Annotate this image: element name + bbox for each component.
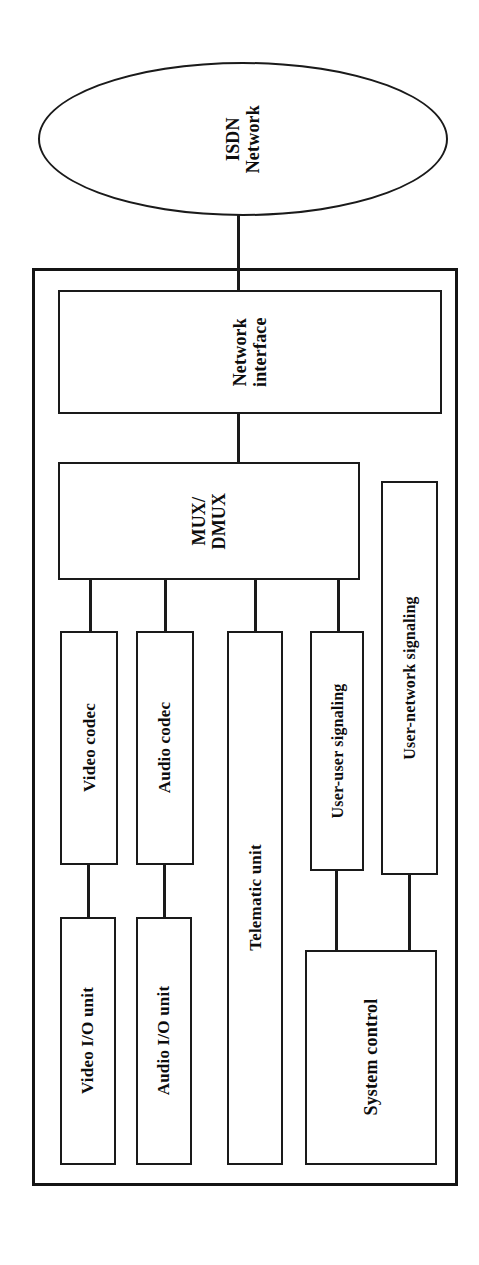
user-user-signaling-label: User-user signaling bbox=[328, 684, 346, 819]
telematic-unit-node: Telematic unit bbox=[227, 631, 283, 1165]
audio-io-unit-label-text: Audio I/O unit bbox=[154, 986, 173, 1096]
isdn-network-node: ISDN Network bbox=[38, 62, 448, 216]
telematic-unit-label-text: Telematic unit bbox=[245, 845, 264, 952]
edge-audio-codec-to-audio-io bbox=[163, 863, 166, 919]
video-io-unit-label: Video I/O unit bbox=[78, 987, 97, 1094]
video-codec-node: Video codec bbox=[60, 631, 118, 865]
mux-dmux-label: MUX/ DMUX bbox=[189, 465, 229, 577]
audio-codec-label: Audio codec bbox=[155, 702, 174, 793]
system-control-label-text: System control bbox=[361, 999, 381, 1116]
mux-dmux-node: MUX/ DMUX bbox=[58, 462, 360, 580]
mux-dmux-label-line2: DMUX bbox=[209, 493, 229, 550]
audio-io-unit-label: Audio I/O unit bbox=[154, 986, 173, 1096]
isdn-network-label-line1: ISDN bbox=[223, 117, 243, 161]
edge-user-network-signaling-to-system-control bbox=[408, 873, 411, 952]
user-user-signaling-label-text: User-user signaling bbox=[328, 684, 345, 819]
isdn-network-label: ISDN Network bbox=[223, 64, 263, 214]
edge-mux-to-video-codec bbox=[89, 578, 92, 632]
network-interface-label-text: Network interface bbox=[230, 317, 270, 387]
user-user-signaling-node: User-user signaling bbox=[310, 631, 364, 871]
edge-mux-to-telematic-unit bbox=[254, 578, 257, 632]
audio-io-unit-node: Audio I/O unit bbox=[136, 917, 192, 1165]
video-codec-label: Video codec bbox=[79, 704, 98, 793]
edge-user-user-signaling-to-system-control bbox=[335, 869, 338, 952]
telematic-unit-label: Telematic unit bbox=[245, 845, 264, 952]
audio-codec-label-text: Audio codec bbox=[155, 702, 174, 793]
system-control-node: System control bbox=[305, 950, 437, 1165]
network-interface-label: Network interface bbox=[230, 293, 270, 411]
edge-mux-to-audio-codec bbox=[164, 578, 167, 632]
edge-network-interface-to-mux bbox=[237, 412, 240, 464]
system-control-label: System control bbox=[361, 999, 381, 1116]
edge-isdn-to-network-interface bbox=[237, 214, 240, 292]
network-interface-node: Network interface bbox=[58, 290, 442, 414]
user-network-signaling-node: User-network signaling bbox=[381, 481, 438, 875]
video-codec-label-text: Video codec bbox=[79, 704, 98, 793]
diagram-canvas: ISDN videoconferencing terminal block di… bbox=[0, 0, 479, 1265]
user-network-signaling-label-text: User-network signaling bbox=[401, 596, 418, 759]
mux-dmux-label-line1: MUX/ bbox=[189, 497, 209, 546]
video-io-unit-label-text: Video I/O unit bbox=[78, 987, 97, 1094]
user-network-signaling-label: User-network signaling bbox=[401, 596, 419, 759]
edge-video-codec-to-video-io bbox=[87, 863, 90, 919]
isdn-network-label-line2: Network bbox=[243, 105, 263, 173]
video-io-unit-node: Video I/O unit bbox=[60, 917, 116, 1165]
audio-codec-node: Audio codec bbox=[136, 631, 194, 865]
edge-mux-to-user-user-signaling bbox=[337, 578, 340, 632]
